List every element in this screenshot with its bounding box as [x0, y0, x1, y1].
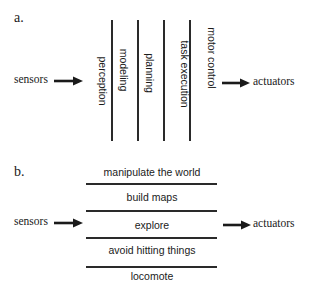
layer-divider	[86, 237, 217, 239]
layer-avoid-hitting-things: avoid hitting things	[86, 244, 218, 256]
layer-perception: perception	[97, 41, 109, 121]
arrow-right-icon	[223, 220, 253, 230]
layer-manipulate-the-world: manipulate the world	[86, 166, 218, 178]
layer-divider	[189, 20, 191, 141]
arrow-right-icon	[54, 76, 84, 86]
layer-explore: explore	[86, 219, 218, 231]
panel-a-actuators-label: actuators	[253, 75, 295, 87]
panel-a-label: a.	[14, 10, 24, 26]
arrow-right-icon	[222, 78, 252, 88]
layer-build-maps: build maps	[86, 191, 218, 203]
layer-divider	[137, 20, 139, 141]
layer-modeling: modeling	[118, 30, 130, 110]
panel-b-label: b.	[14, 164, 25, 180]
panel-b-sensors-label: sensors	[14, 215, 48, 227]
layer-locomote: locomote	[86, 270, 218, 282]
arrow-right-icon	[54, 218, 84, 228]
layer-divider	[86, 183, 217, 185]
layer-motor-control: motor control	[206, 3, 218, 113]
layer-divider	[111, 20, 113, 141]
layer-divider	[86, 210, 217, 212]
layer-divider	[86, 266, 217, 268]
layer-divider	[163, 20, 165, 141]
panel-b-actuators-label: actuators	[253, 217, 295, 229]
layer-planning: planning	[144, 33, 156, 113]
panel-a-sensors-label: sensors	[14, 73, 48, 85]
